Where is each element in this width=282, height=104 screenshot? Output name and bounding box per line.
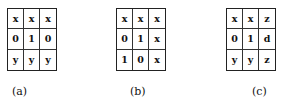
grid-cell: x [243,9,259,29]
grid-cell: 0 [40,29,56,49]
grid-cell: x [40,9,56,29]
grid-cell: y [8,50,24,70]
caption-a: (a) [12,86,27,97]
grid-cell: 0 [8,29,24,49]
grid-cell: 1 [133,29,149,49]
grid-c: x x z 0 1 d y y z [226,8,276,71]
grid-cell: x [24,9,40,29]
grid-cell: x [149,50,165,70]
grid-cell: d [259,29,275,49]
grid-cell: 1 [24,29,40,49]
grid-b: x x x 0 1 x 1 0 x [116,8,166,71]
grid-a: x x x 0 1 0 y y y [7,8,57,71]
grid-cell: z [259,50,275,70]
grid-cell: x [149,29,165,49]
grid-cell: 0 [133,50,149,70]
grid-cell: 0 [117,29,133,49]
grid-cell: y [40,50,56,70]
grid-cell: x [227,9,243,29]
caption-c: (c) [252,86,267,97]
grid-cell: y [227,50,243,70]
grid-cell: 1 [117,50,133,70]
grid-cell: y [24,50,40,70]
grid-cell: 0 [227,29,243,49]
grid-cell: x [117,9,133,29]
grid-cell: z [259,9,275,29]
caption-b: (b) [130,86,146,97]
grid-cell: y [243,50,259,70]
grid-cell: 1 [243,29,259,49]
grid-cell: x [8,9,24,29]
grid-cell: x [149,9,165,29]
grid-cell: x [133,9,149,29]
